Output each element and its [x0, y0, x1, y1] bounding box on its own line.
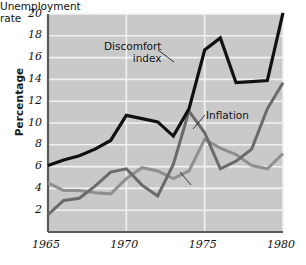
- y-tick-label-8: 8: [20, 137, 42, 150]
- chart-container: Percentage 2468101214161820 196519701975…: [0, 0, 306, 265]
- y-tick-label-18: 18: [20, 28, 42, 41]
- y-tick-label-14: 14: [20, 72, 42, 85]
- annotation-unemployment-rate: Unemployment rate: [0, 0, 81, 24]
- y-tick-label-16: 16: [20, 50, 42, 63]
- x-tick-label-1970: 1970: [110, 238, 138, 251]
- y-tick-label-10: 10: [20, 116, 42, 129]
- x-tick-label-1965: 1965: [32, 238, 60, 251]
- y-tick-label-2: 2: [20, 203, 42, 216]
- annotation-inflation: Inflation: [206, 109, 249, 121]
- y-tick-label-4: 4: [20, 181, 42, 194]
- y-tick-label-12: 12: [20, 94, 42, 107]
- x-tick-label-1980: 1980: [267, 238, 295, 251]
- y-tick-label-6: 6: [20, 159, 42, 172]
- x-tick-label-1975: 1975: [189, 238, 217, 251]
- annotation-discomfort-index: Discomfort index: [104, 40, 161, 64]
